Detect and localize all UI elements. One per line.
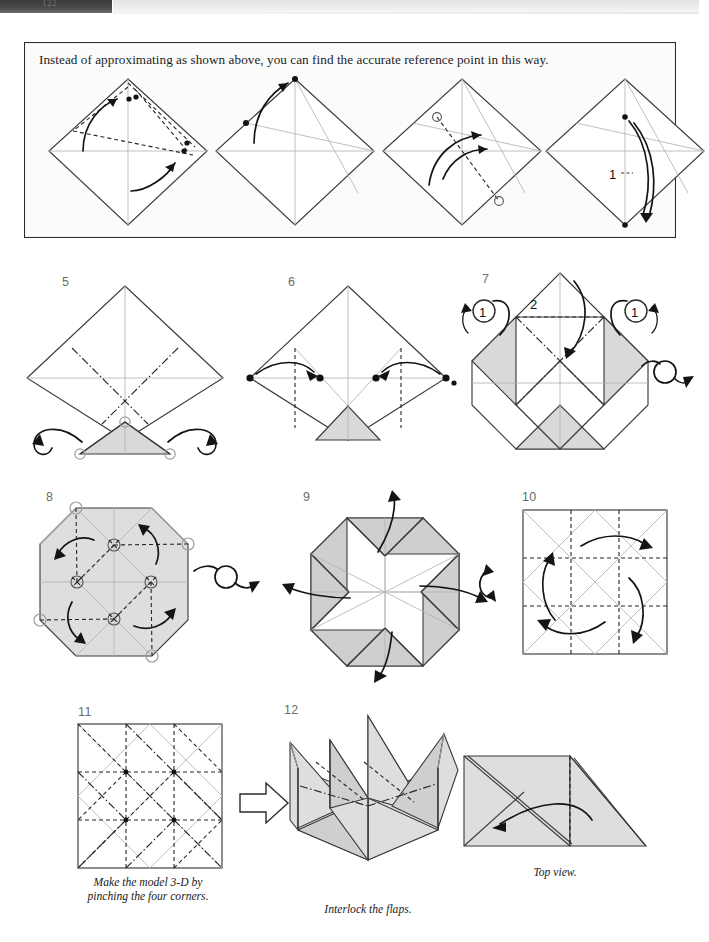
step-12-figure [268,710,468,885]
step-5-figure [10,282,240,457]
step-11-figure [70,718,230,873]
turn-over-symbol-step7 [638,350,696,396]
step7-label-1-left: 1 [479,305,486,320]
turn-over-symbol-step8 [190,555,262,599]
step-7-figure: 2 1 1 [452,265,667,465]
scan-grey-bar [113,0,699,12]
step-9-figure [280,490,500,680]
step-11-caption-line1: Make the model 3-D by [48,876,248,891]
top-view-figure [460,750,650,860]
step-number-11: 11 [78,705,92,719]
callout-box: Instead of approximating as shown above,… [24,42,676,238]
callout-panel-c [377,73,547,233]
page-number: 122 [42,0,82,10]
step7-label-1-right: 1 [631,305,638,320]
callout-panel-a [43,73,213,233]
top-view-caption: Top view. [470,866,640,881]
step-10-figure [505,498,685,673]
callout-text: Instead of approximating as shown above,… [39,51,549,68]
repeat-label-1: 1 [609,167,616,182]
step-6-figure [240,282,455,457]
step-12-caption: Interlock the flaps. [268,903,468,918]
step7-label-2: 2 [530,297,537,312]
step-11-caption-line2: pinching the four corners. [48,890,248,905]
callout-panel-b [210,73,380,233]
callout-panel-d: 1 [537,73,709,238]
